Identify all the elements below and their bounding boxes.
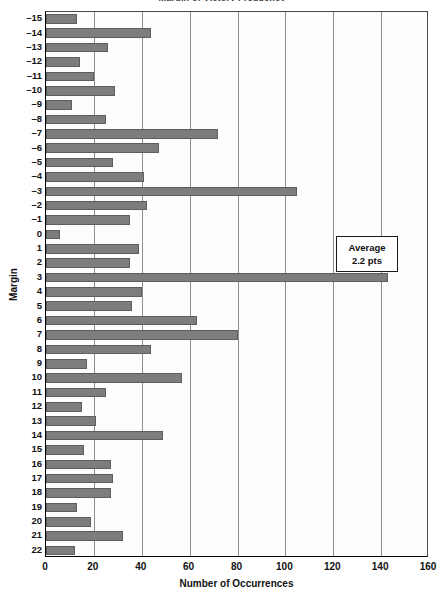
- bar-row: [46, 443, 429, 457]
- y-tick--12: –12: [2, 56, 42, 66]
- margin-of-victory-chart: Margin of Victory Frequency –15–14–13–12…: [0, 0, 444, 597]
- bar-row: [46, 429, 429, 443]
- bar-margin--9: [46, 100, 72, 110]
- bar-margin--15: [46, 14, 77, 24]
- y-tick-22: 22: [2, 545, 42, 555]
- y-tick--3: –3: [2, 186, 42, 196]
- bar-row: [46, 55, 429, 69]
- bar-margin-22: [46, 546, 75, 556]
- bar-margin-16: [46, 460, 111, 470]
- average-annotation-box: Average 2.2 pts: [336, 236, 398, 272]
- y-tick-7: 7: [2, 329, 42, 339]
- x-tick-60: 60: [169, 561, 209, 572]
- bar-margin-19: [46, 503, 77, 513]
- y-tick--8: –8: [2, 114, 42, 124]
- bar-row: [46, 184, 429, 198]
- bar-row: [46, 170, 429, 184]
- bar-row: [46, 371, 429, 385]
- y-axis-tick-labels: –15–14–13–12–11–10–9–8–7–6–5–4–3–2–10123…: [0, 11, 42, 557]
- bar-row: [46, 299, 429, 313]
- x-axis-title: Number of Occurrences: [45, 578, 428, 589]
- bar-row: [46, 328, 429, 342]
- y-tick-19: 19: [2, 502, 42, 512]
- bar-row: [46, 400, 429, 414]
- x-tick-20: 20: [73, 561, 113, 572]
- x-tick-40: 40: [121, 561, 161, 572]
- y-tick-1: 1: [2, 243, 42, 253]
- y-tick-15: 15: [2, 444, 42, 454]
- y-tick--5: –5: [2, 157, 42, 167]
- y-tick--15: –15: [2, 13, 42, 23]
- bar-row: [46, 544, 429, 558]
- y-tick-11: 11: [2, 387, 42, 397]
- bar-margin-5: [46, 301, 132, 311]
- y-tick--11: –11: [2, 71, 42, 81]
- bar-margin-1: [46, 244, 139, 254]
- bar-margin--2: [46, 201, 147, 211]
- bar-margin-4: [46, 287, 142, 297]
- bar-margin--1: [46, 215, 130, 225]
- y-tick--2: –2: [2, 200, 42, 210]
- bar-row: [46, 69, 429, 83]
- bar-margin--3: [46, 187, 297, 197]
- y-tick--6: –6: [2, 143, 42, 153]
- y-tick-12: 12: [2, 401, 42, 411]
- bar-margin-13: [46, 416, 96, 426]
- y-tick-6: 6: [2, 315, 42, 325]
- bar-row: [46, 529, 429, 543]
- y-tick-16: 16: [2, 459, 42, 469]
- y-tick-20: 20: [2, 516, 42, 526]
- y-tick--13: –13: [2, 42, 42, 52]
- bar-row: [46, 342, 429, 356]
- bar-margin--13: [46, 43, 108, 53]
- y-tick--7: –7: [2, 128, 42, 138]
- bar-margin--14: [46, 28, 151, 38]
- bar-margin--10: [46, 86, 115, 96]
- bar-margin--7: [46, 129, 218, 139]
- average-annotation-value: 2.2 pts: [337, 254, 397, 267]
- y-tick-8: 8: [2, 344, 42, 354]
- bar-margin-8: [46, 345, 151, 355]
- bar-margin--5: [46, 158, 113, 168]
- bar-margin--6: [46, 143, 159, 153]
- y-tick-18: 18: [2, 487, 42, 497]
- bar-margin--4: [46, 172, 144, 182]
- bar-row: [46, 457, 429, 471]
- bar-margin-2: [46, 258, 130, 268]
- bar-row: [46, 515, 429, 529]
- bar-row: [46, 486, 429, 500]
- average-annotation-label: Average: [337, 241, 397, 254]
- y-tick-14: 14: [2, 430, 42, 440]
- bar-margin-7: [46, 330, 238, 340]
- y-tick--10: –10: [2, 85, 42, 95]
- bar-row: [46, 386, 429, 400]
- x-tick-80: 80: [217, 561, 257, 572]
- bar-row: [46, 414, 429, 428]
- bar-margin-0: [46, 230, 60, 240]
- bar-margin--8: [46, 115, 106, 125]
- bar-margin-6: [46, 316, 197, 326]
- bar-row: [46, 501, 429, 515]
- bar-margin-21: [46, 531, 123, 541]
- x-tick-120: 120: [312, 561, 352, 572]
- bar-margin--11: [46, 72, 94, 82]
- x-tick-160: 160: [408, 561, 444, 572]
- bar-margin-17: [46, 474, 113, 484]
- y-tick-0: 0: [2, 229, 42, 239]
- bar-row: [46, 113, 429, 127]
- bar-margin-14: [46, 431, 163, 441]
- bar-row: [46, 98, 429, 112]
- bar-row: [46, 26, 429, 40]
- y-tick--1: –1: [2, 214, 42, 224]
- plot-area: [45, 11, 428, 557]
- y-tick-10: 10: [2, 372, 42, 382]
- x-axis-tick-labels: 020406080100120140160: [0, 561, 444, 575]
- bar-row: [46, 156, 429, 170]
- bar-row: [46, 314, 429, 328]
- bar-row: [46, 12, 429, 26]
- bar-row: [46, 84, 429, 98]
- y-tick--4: –4: [2, 171, 42, 181]
- bar-margin-15: [46, 445, 84, 455]
- bar-row: [46, 141, 429, 155]
- bar-row: [46, 127, 429, 141]
